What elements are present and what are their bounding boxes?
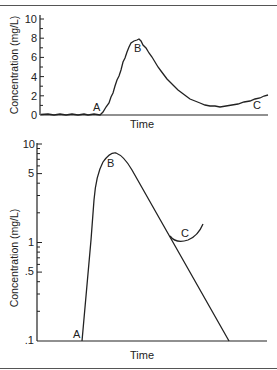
bottom-x-label: Time (130, 349, 154, 361)
top-label-a: A (93, 101, 101, 113)
top-tick-10: 10 (25, 13, 37, 25)
bottom-tick-01: .1 (25, 334, 34, 346)
bottom-tick-05: .5 (25, 265, 34, 277)
bottom-y-ticks (37, 144, 42, 311)
top-label-b: B (134, 42, 141, 54)
bottom-label-b: B (107, 157, 114, 169)
top-tick-4: 4 (31, 71, 37, 83)
bottom-label-c: C (181, 227, 189, 239)
top-chart: 10 8 6 4 2 0 Concentration (mg/L) Time A… (8, 13, 268, 130)
bottom-data-line (82, 153, 229, 341)
bottom-label-a: A (73, 328, 81, 340)
top-x-label: Time (130, 118, 154, 130)
figure: 10 8 6 4 2 0 Concentration (mg/L) Time A… (0, 0, 277, 370)
top-data-line (41, 39, 268, 115)
top-tick-8: 8 (31, 32, 37, 44)
top-tick-2: 2 (31, 90, 37, 102)
top-label-c: C (253, 99, 261, 111)
bottom-tick-10: 10 (23, 138, 35, 150)
top-y-label: Concentration (mg/L) (8, 16, 20, 115)
top-tick-6: 6 (31, 51, 37, 63)
bottom-tick-5: 5 (28, 167, 34, 179)
bottom-y-label: Concentration (mg/L) (8, 209, 20, 308)
top-tick-0: 0 (31, 109, 37, 121)
bottom-chart: 10 5 1 .5 .1 Concentration (mg/L) Time A… (8, 138, 267, 361)
bottom-tick-1: 1 (28, 236, 34, 248)
